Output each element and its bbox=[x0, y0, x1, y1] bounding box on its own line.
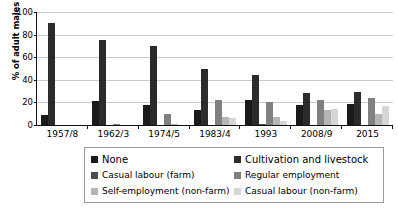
legend-label: Casual labour (farm) bbox=[102, 171, 195, 180]
bar bbox=[194, 110, 201, 125]
x-axis-tick-label: 2008/9 bbox=[291, 129, 342, 139]
bar-group: 1957/8 bbox=[37, 12, 88, 125]
bar bbox=[266, 102, 273, 125]
bar bbox=[368, 98, 375, 125]
bar bbox=[296, 105, 303, 125]
legend-label: Casual labour (non-farm) bbox=[245, 187, 358, 196]
plot-area: 020406080100 1957/81962/31974/51983/4199… bbox=[36, 12, 393, 126]
bar bbox=[324, 110, 331, 125]
bar bbox=[273, 117, 280, 125]
bar bbox=[347, 104, 354, 125]
legend-swatch-icon bbox=[234, 172, 241, 179]
y-axis-tick-label: 100 bbox=[17, 8, 33, 17]
bar bbox=[171, 124, 178, 125]
bar bbox=[113, 124, 120, 125]
bar bbox=[92, 101, 99, 125]
x-axis-tick-label: 2015 bbox=[342, 129, 393, 139]
legend-swatch-icon bbox=[91, 172, 98, 179]
bar bbox=[48, 23, 55, 125]
legend-swatch-icon bbox=[234, 188, 241, 195]
bar bbox=[354, 92, 361, 125]
bar bbox=[201, 69, 208, 126]
y-axis-tick-label: 20 bbox=[22, 98, 33, 107]
bar bbox=[317, 100, 324, 125]
bar bbox=[215, 100, 222, 125]
bar bbox=[143, 105, 150, 125]
legend-swatch-icon bbox=[234, 156, 241, 163]
y-axis-tick-mark bbox=[34, 125, 37, 126]
bar-group: 1993 bbox=[240, 12, 291, 125]
bar bbox=[259, 124, 266, 125]
bar-group: 2008/9 bbox=[291, 12, 342, 125]
x-axis-tick-label: 1983/4 bbox=[190, 129, 241, 139]
bar bbox=[303, 93, 310, 125]
legend-label: Cultivation and livestock bbox=[245, 155, 368, 165]
bar bbox=[222, 117, 229, 125]
legend-label: Self-employment (non-farm) bbox=[102, 187, 230, 196]
bar-group: 2015 bbox=[342, 12, 393, 125]
legend-item: Casual labour (non-farm) bbox=[234, 183, 377, 199]
bar bbox=[245, 100, 252, 125]
legend-item: Self-employment (non-farm) bbox=[91, 183, 234, 199]
legend-item: Cultivation and livestock bbox=[234, 152, 377, 168]
bar bbox=[375, 114, 382, 125]
x-axis-tick-label: 1957/8 bbox=[37, 129, 88, 139]
bar-group: 1983/4 bbox=[190, 12, 241, 125]
legend-label: Regular employment bbox=[245, 171, 339, 180]
legend-swatch-icon bbox=[91, 156, 98, 163]
bar bbox=[229, 118, 236, 125]
bar bbox=[99, 40, 106, 125]
bar-groups: 1957/81962/31974/51983/419932008/92015 bbox=[37, 12, 393, 125]
legend-item: Casual labour (farm) bbox=[91, 168, 234, 184]
bar-chart-figure: % of adult males 020406080100 1957/81962… bbox=[0, 0, 398, 210]
x-axis-tick-label: 1993 bbox=[240, 129, 291, 139]
chart-legend: NoneCultivation and livestockCasual labo… bbox=[84, 147, 384, 203]
bar bbox=[382, 106, 389, 125]
bar bbox=[41, 115, 48, 125]
bar bbox=[150, 46, 157, 125]
y-axis-tick-label: 40 bbox=[22, 76, 33, 85]
y-axis-tick-label: 0 bbox=[28, 121, 33, 130]
legend-label: None bbox=[102, 155, 128, 165]
legend-swatch-icon bbox=[91, 188, 98, 195]
bar bbox=[331, 109, 338, 125]
bar-group: 1974/5 bbox=[139, 12, 190, 125]
x-axis-tick-label: 1962/3 bbox=[88, 129, 139, 139]
bar-group: 1962/3 bbox=[88, 12, 139, 125]
bar bbox=[280, 121, 287, 125]
y-axis-tick-label: 80 bbox=[22, 30, 33, 39]
y-axis-tick-label: 60 bbox=[22, 53, 33, 62]
bar bbox=[164, 114, 171, 125]
legend-item: None bbox=[91, 152, 234, 168]
legend-item: Regular employment bbox=[234, 168, 377, 184]
x-axis-tick-label: 1974/5 bbox=[139, 129, 190, 139]
bar bbox=[252, 75, 259, 125]
